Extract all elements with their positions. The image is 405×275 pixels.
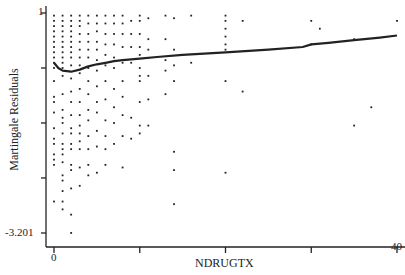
x-tick-label-right: 40 <box>391 240 402 252</box>
x-tick-label-left: 0 <box>51 251 57 263</box>
scatter-plot <box>0 0 405 275</box>
y-tick-label-top: 1 <box>38 5 44 17</box>
y-tick-label-bottom: -3.201 <box>5 226 33 238</box>
x-axis-label: NDRUGTX <box>195 256 254 271</box>
axes <box>41 6 405 253</box>
y-axis-label: Martingale Residuals <box>7 60 22 180</box>
residual-points <box>53 15 398 234</box>
smooth-line <box>54 36 397 72</box>
